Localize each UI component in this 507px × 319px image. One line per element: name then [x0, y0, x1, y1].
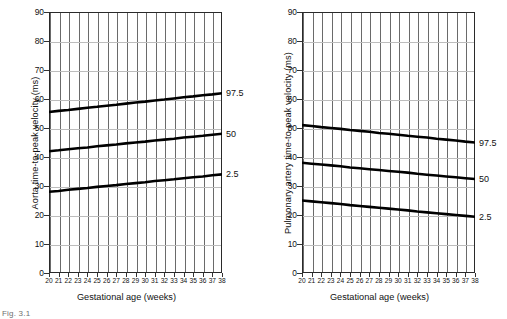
- x-axis-tick-label: 35: [442, 277, 449, 284]
- y-axis-tick-label: 40: [35, 153, 44, 161]
- x-axis-tick-mark: [107, 273, 108, 277]
- vertical-gridline: [418, 13, 419, 272]
- x-axis-title-pulmonary-artery: Gestational age (weeks): [253, 292, 506, 302]
- x-axis-tick-mark: [437, 273, 438, 277]
- x-axis-tick-label: 23: [74, 277, 81, 284]
- horizontal-gridline: [303, 187, 474, 188]
- vertical-gridline: [127, 13, 128, 272]
- x-axis-tick-label: 30: [394, 277, 401, 284]
- horizontal-gridline: [50, 42, 221, 43]
- x-axis-tick-mark: [331, 273, 332, 277]
- x-axis-tick-mark: [312, 273, 313, 277]
- x-axis-tick-mark: [155, 273, 156, 277]
- vertical-gridline: [156, 13, 157, 272]
- x-axis-tick-label: 28: [375, 277, 382, 284]
- x-axis-tick-mark: [203, 273, 204, 277]
- horizontal-gridline: [303, 129, 474, 130]
- x-axis-tick-label: 31: [404, 277, 411, 284]
- vertical-gridline: [165, 13, 166, 272]
- x-axis-tick-mark: [87, 273, 88, 277]
- x-axis-tick-mark: [136, 273, 137, 277]
- vertical-gridline: [213, 13, 214, 272]
- x-axis-tick-mark: [49, 273, 50, 277]
- vertical-gridline: [457, 13, 458, 272]
- x-axis-tick-mark: [145, 273, 146, 277]
- y-axis-tick-mark: [297, 70, 302, 71]
- x-axis-tick-mark: [78, 273, 79, 277]
- figure-two-panel-centile-charts: Aorta time-to-peak velocity (ms) 0102030…: [0, 0, 507, 319]
- x-axis-tick-mark: [389, 273, 390, 277]
- horizontal-gridline: [303, 71, 474, 72]
- x-axis-tick-mark: [475, 273, 476, 277]
- y-axis-tick-label: 60: [288, 95, 297, 103]
- x-axis-tick-mark: [193, 273, 194, 277]
- x-axis-tick-label: 34: [180, 277, 187, 284]
- x-axis-tick-mark: [350, 273, 351, 277]
- x-axis-tick-label: 32: [414, 277, 421, 284]
- vertical-gridline: [313, 13, 314, 272]
- plot-area-pulmonary-artery: [302, 12, 475, 273]
- x-axis-tick-mark: [222, 273, 223, 277]
- x-axis-tick-mark: [398, 273, 399, 277]
- x-axis-tick-mark: [59, 273, 60, 277]
- x-axis-tick-label: 20: [45, 277, 52, 284]
- vertical-gridline: [79, 13, 80, 272]
- y-axis-tick-labels-aorta: 0102030405060708090: [18, 12, 44, 273]
- x-axis-tick-label: 25: [346, 277, 353, 284]
- y-axis-tick-mark: [297, 41, 302, 42]
- x-axis-tick-mark: [446, 273, 447, 277]
- vertical-gridline: [175, 13, 176, 272]
- y-axis-tick-mark: [44, 12, 49, 13]
- x-axis-tick-mark: [369, 273, 370, 277]
- y-axis-tick-label: 70: [35, 66, 44, 74]
- y-axis-tick-label: 20: [35, 211, 44, 219]
- horizontal-gridline: [303, 158, 474, 159]
- horizontal-gridline: [50, 100, 221, 101]
- x-axis-tick-label: 29: [132, 277, 139, 284]
- x-axis-tick-label: 37: [209, 277, 216, 284]
- chart-panel-pulmonary-artery: Pulmonary artery time-to-peak velocity (…: [253, 0, 506, 319]
- x-axis-tick-label: 22: [65, 277, 72, 284]
- y-axis-tick-mark: [44, 41, 49, 42]
- y-axis-tick-label: 90: [35, 8, 44, 16]
- centile-label-2.5: 2.5: [479, 212, 492, 222]
- y-axis-tick-label: 40: [288, 153, 297, 161]
- y-axis-tick-mark: [297, 157, 302, 158]
- vertical-gridline: [361, 13, 362, 272]
- x-axis-tick-mark: [164, 273, 165, 277]
- vertical-gridline: [332, 13, 333, 272]
- vertical-gridline: [428, 13, 429, 272]
- x-axis-tick-labels-aorta: 20212223242526272829303132333435363738: [49, 277, 222, 287]
- vertical-gridline: [370, 13, 371, 272]
- y-axis-tick-mark: [44, 215, 49, 216]
- x-axis-tick-label: 20: [298, 277, 305, 284]
- x-axis-tick-mark: [126, 273, 127, 277]
- vertical-gridline: [185, 13, 186, 272]
- x-axis-tick-label: 24: [337, 277, 344, 284]
- horizontal-gridline: [50, 158, 221, 159]
- x-axis-tick-mark: [68, 273, 69, 277]
- y-axis-tick-mark: [44, 244, 49, 245]
- x-axis-tick-label: 36: [199, 277, 206, 284]
- x-axis-tick-mark: [321, 273, 322, 277]
- centile-label-50: 50: [479, 174, 489, 184]
- x-axis-tick-label: 21: [308, 277, 315, 284]
- x-axis-tick-mark: [97, 273, 98, 277]
- x-axis-tick-label: 34: [433, 277, 440, 284]
- vertical-gridline: [117, 13, 118, 272]
- x-axis-tick-label: 30: [141, 277, 148, 284]
- y-axis-tick-mark: [44, 99, 49, 100]
- x-axis-tick-label: 26: [103, 277, 110, 284]
- x-axis-tick-label: 22: [318, 277, 325, 284]
- x-axis-tick-label: 31: [151, 277, 158, 284]
- y-axis-tick-label: 50: [35, 124, 44, 132]
- x-axis-tick-mark: [465, 273, 466, 277]
- x-axis-tick-mark: [456, 273, 457, 277]
- y-axis-tick-labels-pulmonary-artery: 0102030405060708090: [271, 12, 297, 273]
- y-axis-tick-mark: [44, 70, 49, 71]
- x-axis-tick-mark: [116, 273, 117, 277]
- y-axis-tick-mark: [297, 99, 302, 100]
- y-axis-tick-mark: [297, 186, 302, 187]
- x-axis-tick-label: 28: [122, 277, 129, 284]
- x-axis-tick-label: 38: [471, 277, 478, 284]
